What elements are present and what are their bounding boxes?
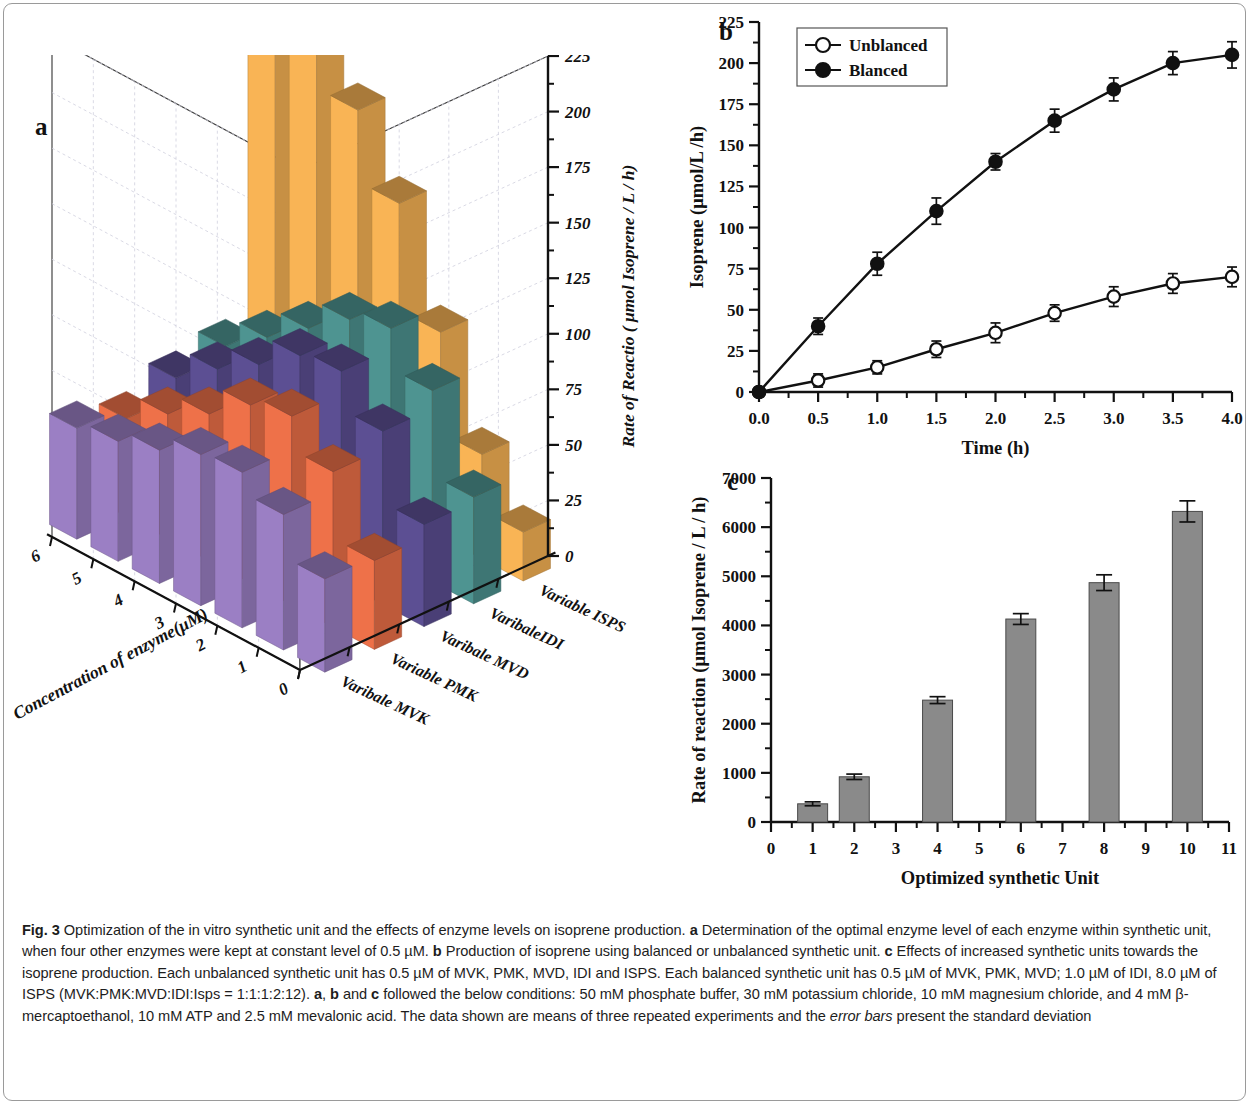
- caption-span: a: [690, 922, 698, 938]
- panel-a-3d-bar-chart: 0123456Concentration of enzyme(μM)Variba…: [0, 55, 690, 885]
- open-circle-marker: [1048, 307, 1060, 319]
- panel-c-y-tick-label: 0: [748, 813, 757, 832]
- panel-b-y-tick-label: 100: [719, 219, 745, 238]
- panel-b-legend: UnblancedBlanced: [797, 28, 947, 86]
- panel-a-x-tick-label: 0: [275, 679, 292, 700]
- panel-a-z-tick-label: 150: [565, 214, 591, 233]
- panel-c-y-tick-label: 2000: [722, 715, 756, 734]
- open-circle-marker: [1108, 290, 1120, 302]
- panel-a-category-label: Varibale MVK: [339, 672, 433, 728]
- caption-span: c: [885, 943, 893, 959]
- filled-circle-marker: [1167, 57, 1179, 69]
- caption-span: Fig. 3: [22, 922, 60, 938]
- panel-a-z-axis-title: Rate of Reactio ( μmol Isoprene / L / h): [618, 165, 638, 449]
- panel-c-x-tick-label: 9: [1141, 839, 1150, 858]
- panel-c-x-tick-label: 1: [808, 839, 817, 858]
- open-circle-marker: [989, 327, 1001, 339]
- panel-c-bar: [1089, 583, 1119, 822]
- panel-a-z-tick-label: 0: [565, 547, 574, 566]
- panel-c-bar: [1006, 619, 1036, 822]
- panel-b-x-tick-label: 2.0: [985, 409, 1006, 428]
- filled-circle-marker: [871, 258, 883, 270]
- figure-panels: 0123456Concentration of enzyme(μM)Variba…: [0, 0, 1251, 895]
- panel-c-x-tick-label: 2: [850, 839, 859, 858]
- panel-a-category-label: VaribaleIDI: [487, 604, 567, 653]
- panel-b-x-tick-label: 2.5: [1044, 409, 1065, 428]
- panel-c-x-tick-label: 8: [1100, 839, 1109, 858]
- panel-b-x-tick-label: 1.5: [926, 409, 947, 428]
- panel-b-y-tick-label: 150: [719, 136, 745, 155]
- open-circle-marker: [1226, 271, 1238, 283]
- panel-c-bar-chart: 0100020003000400050006000700001234567891…: [681, 452, 1251, 897]
- panel-b-legend-label: Unblanced: [849, 36, 928, 55]
- caption-span: b: [433, 943, 442, 959]
- panel-b-y-tick-label: 50: [727, 301, 744, 320]
- panel-a-z-tick-label: 75: [565, 380, 583, 399]
- panel-c-y-tick-label: 3000: [722, 666, 756, 685]
- panel-b-y-tick-label: 0: [736, 383, 745, 402]
- panel-c-x-axis-title: Optimized synthetic Unit: [901, 868, 1100, 888]
- panel-c-x-tick-label: 10: [1179, 839, 1196, 858]
- panel-b-line-chart: 02550751001251501752002250.00.51.01.52.0…: [681, 0, 1251, 460]
- panel-a-x-tick-label: 6: [27, 546, 44, 567]
- panel-a-z-tick-label: 100: [565, 325, 591, 344]
- panel-c-y-tick-label: 6000: [722, 518, 756, 537]
- panel-b-y-axis-title: Isoprene (μmol/L /h): [687, 126, 708, 288]
- filled-circle-marker: [812, 320, 824, 332]
- filled-circle-marker: [1108, 83, 1120, 95]
- panel-b-x-tick-label: 0.5: [808, 409, 829, 428]
- panel-c-letter: c: [727, 468, 738, 495]
- caption-span: Optimization of the in vitro synthetic u…: [60, 922, 690, 938]
- panel-c-x-tick-label: 7: [1058, 839, 1067, 858]
- panel-a-z-tick-label: 50: [565, 436, 583, 455]
- panel-c-x-tick-label: 6: [1017, 839, 1025, 858]
- figure-caption: Fig. 3 Optimization of the in vitro synt…: [22, 920, 1227, 1028]
- caption-span: b: [330, 986, 339, 1002]
- panel-c-y-tick-label: 4000: [722, 616, 756, 635]
- panel-b-y-tick-label: 75: [727, 260, 744, 279]
- panel-c-x-tick-label: 4: [933, 839, 942, 858]
- panel-a-z-tick-label: 25: [564, 491, 583, 510]
- panel-b-x-tick-label: 0.0: [748, 409, 769, 428]
- panel-c-x-tick-label: 5: [975, 839, 984, 858]
- panel-c-x-tick-label: 11: [1221, 839, 1237, 858]
- panel-c-x-tick-label: 0: [767, 839, 776, 858]
- bar-3d: [446, 470, 501, 604]
- caption-span: c: [371, 986, 379, 1002]
- panel-b-legend-label: Blanced: [849, 61, 908, 80]
- filled-circle-marker: [1048, 114, 1060, 126]
- panel-a-x-axis-title: Concentration of enzyme(μM): [9, 604, 211, 724]
- legend-open-circle-icon: [816, 38, 830, 52]
- filled-circle-marker: [1226, 49, 1238, 61]
- panel-b-y-tick-label: 200: [719, 54, 745, 73]
- caption-span: ,: [322, 986, 330, 1002]
- panel-a-x-tick-label: 4: [109, 590, 126, 611]
- panel-a-x-tick-label: 1: [234, 657, 250, 678]
- panel-c-y-axis-title: Rate of reaction (μmol Isoprene / L / h): [689, 497, 710, 804]
- legend-filled-circle-icon: [816, 63, 830, 77]
- open-circle-marker: [1167, 277, 1179, 289]
- panel-a-letter: a: [35, 113, 48, 140]
- caption-span: present the standard deviation: [893, 1008, 1092, 1024]
- bar-3d: [298, 552, 353, 673]
- panel-b-x-tick-label: 4.0: [1221, 409, 1242, 428]
- caption-span: Production of isoprene using balanced or…: [442, 943, 885, 959]
- panel-a-category-label: Variable ISPS: [537, 581, 628, 636]
- panel-a-category-label: Varibale MVD: [438, 627, 532, 683]
- panel-a-z-tick-label: 125: [565, 269, 591, 288]
- bar-3d: [397, 497, 452, 626]
- panel-a-x-tick-label: 2: [192, 634, 210, 655]
- caption-span: and: [339, 986, 371, 1002]
- panel-a-x-tick-label: 5: [69, 568, 86, 589]
- panel-c-x-tick-label: 3: [892, 839, 901, 858]
- panel-c-y-tick-label: 1000: [722, 764, 756, 783]
- filled-circle-marker: [930, 205, 942, 217]
- panel-b-x-tick-label: 1.0: [867, 409, 888, 428]
- panel-c-bar: [923, 700, 953, 822]
- open-circle-marker: [871, 361, 883, 373]
- caption-span: a: [314, 986, 322, 1002]
- panel-b-y-tick-label: 125: [719, 177, 745, 196]
- panel-c-bar: [839, 777, 869, 822]
- caption-span: error bars: [830, 1008, 893, 1024]
- bar-3d: [347, 533, 402, 649]
